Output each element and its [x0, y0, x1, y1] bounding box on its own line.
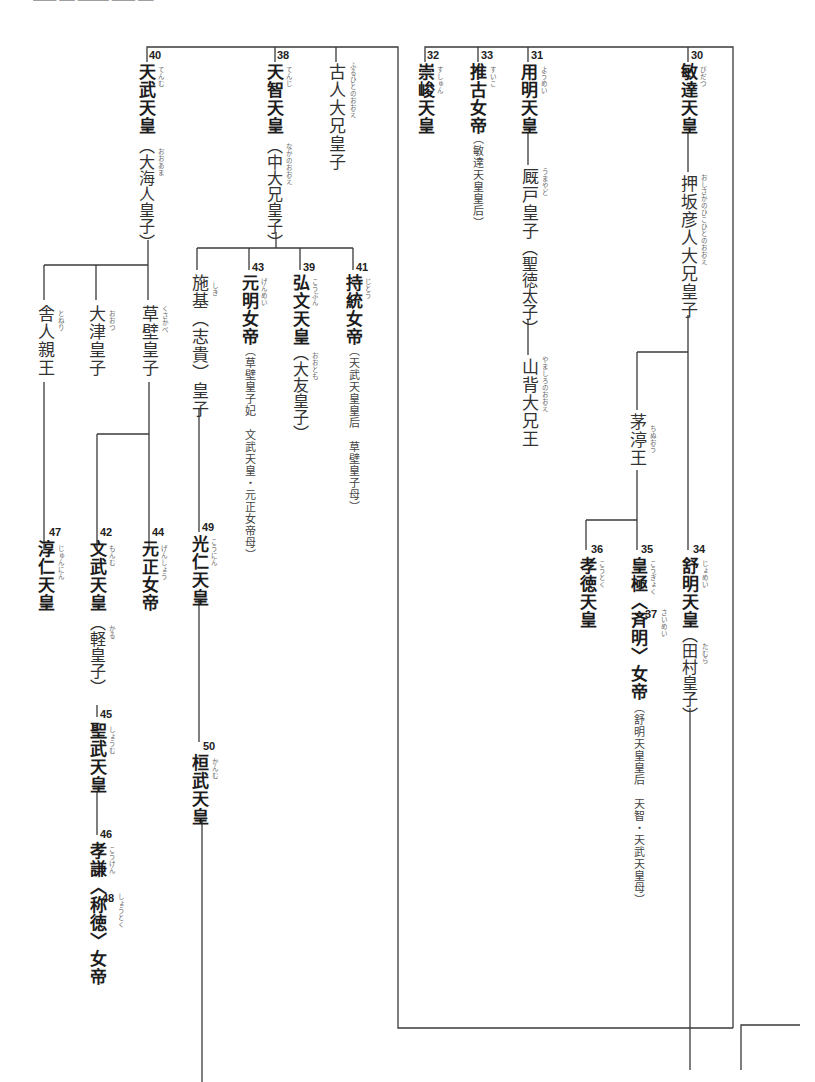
- reign-number: 43: [252, 262, 264, 273]
- person-name: 押坂彦人大兄皇子: [679, 175, 696, 319]
- emperor-name-second: 〈斉明〉女帝: [629, 593, 646, 701]
- note: （敏達天皇皇后）: [471, 133, 483, 229]
- ruby: かんむ: [210, 758, 217, 779]
- ruby: げんめい: [259, 278, 266, 306]
- emperor-name: 天武天皇: [137, 63, 154, 135]
- ruby: じとう: [363, 278, 370, 299]
- emperor-name: 天智天皇: [265, 63, 282, 135]
- ruby: しょうむ: [107, 726, 114, 754]
- alt-ruby: たむら: [700, 643, 707, 664]
- ruby: もんむ: [107, 545, 114, 566]
- emperor-name: 聖武天皇: [88, 722, 105, 794]
- alt-ruby: なかのおおえ: [284, 143, 291, 185]
- emperor-name: 持統女帝: [344, 274, 361, 346]
- note: （草壁皇子妃 文武天皇・元正女帝母）: [243, 345, 255, 561]
- reign-number: 30: [691, 50, 703, 61]
- person-name: 施基（志貴）皇子: [190, 274, 207, 418]
- ruby-second: さいめい: [659, 609, 666, 637]
- alt-ruby: おおとも: [310, 352, 317, 380]
- emperor-name: 淳仁天皇: [36, 540, 53, 612]
- alt-name: （大友皇子）: [291, 345, 308, 441]
- person-name: 厩戸皇子: [520, 168, 537, 240]
- person-name: 草壁皇子: [140, 305, 157, 377]
- ruby: ふるひとのおおえ: [348, 62, 355, 118]
- emperor-name: 用明天皇: [519, 63, 536, 135]
- reign-number: 38: [277, 50, 289, 61]
- note: （天武天皇皇后 草壁皇子母）: [347, 345, 359, 513]
- reign-number: 39: [303, 262, 315, 273]
- alt-name: （軽皇子）: [88, 615, 105, 695]
- reign-number: 44: [152, 527, 164, 538]
- person-name: 大津皇子: [87, 305, 104, 377]
- reign-number: 34: [693, 544, 705, 555]
- reign-number: 40: [149, 50, 161, 61]
- reign-number: 36: [591, 544, 603, 555]
- ruby: てんじ: [284, 66, 291, 87]
- ruby: びだつ: [698, 66, 705, 87]
- emperor-name-second: 〈称徳〉女帝: [88, 878, 105, 986]
- ruby: ちぬおう: [648, 425, 655, 453]
- reign-number: 35: [641, 544, 653, 555]
- ruby: おおつ: [107, 310, 114, 331]
- emperor-name: 光仁天皇: [190, 535, 207, 607]
- alt-name: （大海人皇子）: [137, 138, 154, 250]
- reign-number: 49: [202, 522, 214, 533]
- reign-number: 33: [481, 50, 493, 61]
- emperor-name: 舒明天皇: [680, 557, 697, 629]
- person-name: 古人大兄皇子: [327, 63, 344, 171]
- ruby: こうとく: [597, 560, 604, 588]
- ruby-second: しょうとく: [116, 893, 123, 928]
- note: （舒明天皇皇后 天智・天武天皇母）: [632, 702, 644, 906]
- person-name: 舎人親王: [36, 305, 53, 377]
- ruby: こうぎょく: [648, 560, 655, 595]
- reign-number: 46: [100, 829, 112, 840]
- reign-number: 45: [100, 709, 112, 720]
- ruby: ようめい: [539, 66, 546, 94]
- ruby: てんむ: [156, 66, 163, 87]
- ruby: じょめい: [700, 560, 707, 588]
- reign-number: 50: [203, 741, 215, 752]
- person-name: 山背大兄王: [520, 358, 537, 448]
- ruby: とねり: [56, 310, 63, 331]
- ruby: うまやど: [540, 168, 547, 196]
- ruby: しき: [210, 282, 217, 296]
- ruby: げんしょう: [159, 545, 166, 580]
- ruby: こうぶん: [310, 278, 317, 306]
- emperor-name: 孝謙: [88, 842, 105, 878]
- ruby: おしさかのひこひとのおおえ: [699, 174, 706, 265]
- ruby: こうけん: [107, 846, 114, 874]
- ruby: くさかべ: [160, 305, 167, 333]
- reign-number: 31: [531, 50, 543, 61]
- reign-number: 41: [356, 262, 368, 273]
- alt-name: （中大兄皇子）: [265, 138, 282, 250]
- reign-number: 42: [100, 527, 112, 538]
- ruby: じゅんにん: [56, 545, 63, 580]
- emperor-name: 元明女帝: [240, 274, 257, 346]
- emperor-name: 元正女帝: [140, 540, 157, 612]
- person-name: 茅渟王: [628, 413, 645, 467]
- reign-number: 47: [49, 527, 61, 538]
- emperor-name: 弘文天皇: [291, 274, 308, 346]
- emperor-name: 文武天皇: [88, 540, 105, 612]
- alt-ruby: おおあま: [156, 148, 163, 176]
- emperor-name: 桓武天皇: [190, 754, 207, 826]
- emperor-name: 崇峻天皇: [416, 63, 433, 135]
- emperor-name: 皇極: [629, 557, 646, 593]
- emperor-name: 推古女帝: [468, 63, 485, 135]
- ruby: すしゅん: [435, 66, 442, 94]
- ruby: こうにん: [209, 538, 216, 566]
- top-bar-left: [147, 47, 733, 1028]
- alt-name: （田村皇子）: [680, 627, 697, 723]
- emperor-name: 敏達天皇: [679, 63, 696, 135]
- emperor-name: 孝徳天皇: [578, 557, 595, 629]
- reign-number: 32: [427, 50, 439, 61]
- ruby: すいこ: [488, 66, 495, 87]
- family-tree-diagram: ▀▀▀ ▀▀ ▀▀▀▀ ▀▀▀ ▀▀: [0, 0, 815, 1082]
- alt-ruby: かる: [107, 625, 114, 639]
- alt-name: （聖徳太子）: [520, 240, 537, 336]
- ruby: やましろのおおえ: [540, 356, 547, 412]
